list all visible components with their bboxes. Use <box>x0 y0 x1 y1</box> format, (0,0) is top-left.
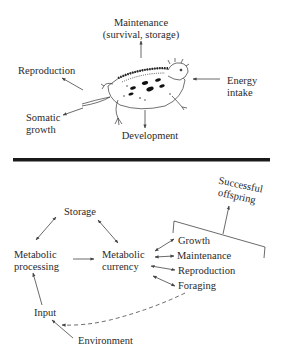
arrow-currency-growth <box>155 239 174 251</box>
arrow-currency-maintenance <box>155 256 174 257</box>
label-input: Input <box>34 307 56 318</box>
label-foraging: Foraging <box>178 280 217 291</box>
label-metabolic-processing-2: processing <box>14 261 60 272</box>
bottom-panel: Storage Metabolic processing Metabolic c… <box>14 175 265 346</box>
label-storage: Storage <box>64 206 96 217</box>
arrow-to-reproduction <box>62 78 83 90</box>
label-intake: intake <box>227 87 253 98</box>
label-growth: Growth <box>178 235 211 246</box>
label-reproduction-top: Reproduction <box>18 65 76 76</box>
label-metabolic-currency-2: currency <box>102 261 139 272</box>
label-metabolic-currency-1: Metabolic <box>102 249 145 260</box>
label-energy: Energy <box>227 75 258 86</box>
successful-offspring-label: Successful offspring <box>215 175 264 207</box>
top-panel: Maintenance (survival, storage) Reproduc… <box>18 17 258 141</box>
label-metabolic-processing-1: Metabolic <box>14 249 57 260</box>
arrow-currency-foraging <box>153 276 175 286</box>
label-maintenance: Maintenance <box>114 17 169 28</box>
arrow-to-somatic-growth <box>63 108 83 115</box>
dashed-arrow-foraging-to-input <box>62 293 185 325</box>
label-growth-top: growth <box>26 124 56 135</box>
label-somatic: Somatic <box>26 112 61 123</box>
label-reproduction: Reproduction <box>178 265 236 276</box>
label-survival-storage: (survival, storage) <box>103 29 180 41</box>
arrow-storage-currency <box>98 220 118 243</box>
label-maintenance: Maintenance <box>177 250 232 261</box>
arrow-environment-to-input <box>52 320 73 338</box>
arrow-currency-reproduction <box>151 266 175 270</box>
energy-allocation-diagram: Maintenance (survival, storage) Reproduc… <box>0 0 281 358</box>
section-divider <box>13 158 270 162</box>
label-environment: Environment <box>78 335 133 346</box>
arrow-storage-processing <box>36 217 56 240</box>
arrow-to-successful-offspring <box>223 206 229 234</box>
arrow-input-to-processing <box>33 273 42 305</box>
horned-lizard-illustration <box>82 58 189 125</box>
label-development: Development <box>122 130 179 141</box>
